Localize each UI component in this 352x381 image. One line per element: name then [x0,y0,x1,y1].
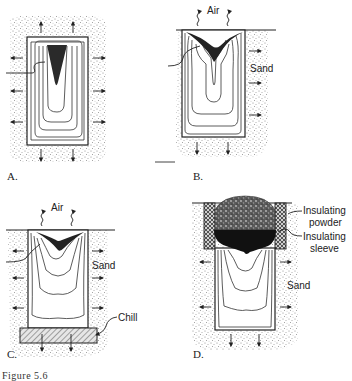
panel-letter-c: C. [7,348,17,360]
insulating-powder [215,196,275,230]
panel-b [155,10,276,162]
insulating-sleeve-right [275,203,286,249]
label-d-sand: Sand [287,280,310,291]
label-c-chill: Chill [118,312,137,323]
panel-letter-a: A. [7,170,18,182]
insulating-sleeve-left [204,203,215,249]
panel-d [192,196,302,350]
label-d-insulating-sleeve-2: sleeve [310,243,339,254]
label-d-insulating-powder-2: powder [309,217,342,228]
chill-block [20,328,97,343]
panel-letter-b: B. [193,170,203,182]
panel-letter-d: D. [193,348,204,360]
panel-a [6,16,106,162]
label-c-sand: Sand [92,260,115,271]
figure-caption-partial: Figure 5.6 [2,370,48,381]
label-d-insulating-powder-1: Insulating [303,205,346,216]
label-b-sand: Sand [250,63,273,74]
panel-c [6,210,117,357]
label-b-air: Air [207,5,219,16]
label-c-air: Air [51,202,63,213]
label-d-insulating-sleeve-1: Insulating [303,231,346,242]
casting-d [215,248,275,330]
